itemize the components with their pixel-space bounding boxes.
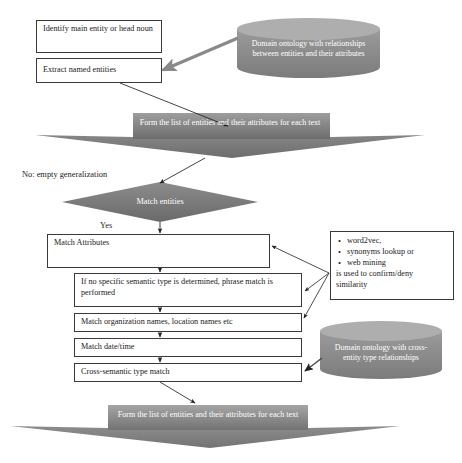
edge-label-yes: Yes (100, 221, 112, 232)
box-phrase-match-label: If no specific semantic type is determin… (81, 277, 296, 298)
box-match-attributes-label: Match Attributes (54, 238, 109, 249)
banner-form-list-bottom-label: Form the list of entities and their attr… (108, 410, 308, 420)
box-identify-main-entity-label: Identify main entity or head noun (43, 24, 153, 35)
arrow-cross-to-banner-bottom (160, 382, 195, 403)
arrow-note-to-org (304, 273, 329, 318)
box-extract-named-entities[interactable]: Extract named entities (36, 58, 162, 83)
note-tail-line-1: is used to confirm/deny (336, 269, 448, 280)
arrow-ontology-to-extract (163, 38, 238, 70)
banner-form-list-top-label: Form the list of entities and their attr… (35, 118, 425, 128)
box-match-date-time-label: Match date/time (81, 342, 134, 353)
flowchart-canvas: Identify main entity or head noun Extrac… (0, 0, 462, 463)
arrow-note-to-phrase (305, 273, 329, 291)
cylinder-ontology-bottom-label: Domain ontology with cross-entity type r… (320, 343, 442, 364)
note-similarity-methods[interactable]: word2vec, synonyms lookup or web mining … (330, 231, 454, 300)
banner-form-list-bottom[interactable]: Form the list of entities and their attr… (10, 405, 400, 448)
diamond-match-entities[interactable]: Match entities (62, 182, 258, 222)
box-match-organization-names[interactable]: Match organization names, location names… (74, 313, 302, 332)
banner-form-list-top[interactable]: Form the list of entities and their attr… (35, 113, 425, 158)
box-match-organization-names-label: Match organization names, location names… (81, 317, 233, 328)
box-extract-named-entities-label: Extract named entities (43, 65, 116, 76)
note-bullet-item: web mining (347, 258, 448, 269)
box-cross-semantic-type-match[interactable]: Cross-semantic type match (74, 363, 302, 382)
arrow-note-to-match-attributes (272, 246, 329, 273)
note-bullet-item: word2vec, (347, 236, 448, 247)
note-tail-line-2: similarity (336, 280, 448, 291)
cylinder-ontology-bottom[interactable]: Domain ontology with cross-entity type r… (320, 321, 442, 379)
note-bullet-list: word2vec, synonyms lookup or web mining (336, 236, 448, 269)
arrow-banner-top-to-diamond (160, 158, 205, 183)
box-match-attributes[interactable]: Match Attributes (47, 234, 270, 268)
box-phrase-match[interactable]: If no specific semantic type is determin… (74, 273, 302, 307)
cylinder-ontology-top-label: Domain ontology with relationships betwe… (237, 39, 380, 60)
box-match-date-time[interactable]: Match date/time (74, 338, 302, 357)
cylinder-ontology-top[interactable]: Domain ontology with relationships betwe… (237, 18, 380, 78)
box-cross-semantic-type-match-label: Cross-semantic type match (81, 367, 170, 378)
box-identify-main-entity[interactable]: Identify main entity or head noun (36, 20, 162, 53)
diamond-match-entities-label: Match entities (62, 197, 258, 206)
note-bullet-item: synonyms lookup or (347, 247, 448, 258)
edge-label-no-empty-generalization: No: empty generalization (22, 170, 108, 181)
